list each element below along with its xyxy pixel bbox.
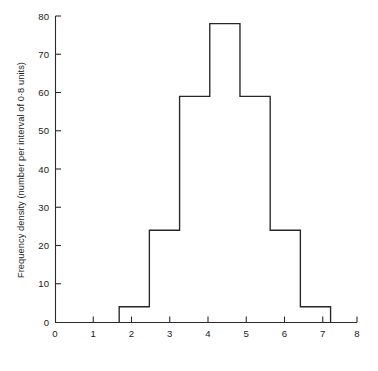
plot-area: 80 70 60 50 40 30 20 10 0 0 1 2 3 4	[0, 0, 378, 371]
histogram-figure: Frequency density (number per interval o…	[0, 0, 378, 371]
x-tick-label: 6	[282, 328, 287, 339]
x-tick-label: 5	[244, 328, 249, 339]
y-tick-label: 40	[38, 164, 49, 175]
y-tick-label: 20	[38, 240, 49, 251]
y-tick-label: 70	[38, 49, 49, 60]
y-tick-label: 30	[38, 202, 49, 213]
y-tick-label: 60	[38, 87, 49, 98]
x-tick-label: 7	[320, 328, 325, 339]
x-tick-label: 8	[354, 328, 359, 339]
x-tick-label: 4	[205, 328, 211, 339]
x-tick-label: 2	[129, 328, 134, 339]
histogram-bars	[119, 24, 330, 322]
x-tick-label: 3	[167, 328, 172, 339]
x-tick-label: 0	[52, 328, 57, 339]
x-axis-ticks	[93, 317, 357, 323]
y-axis-ticks	[56, 16, 62, 284]
y-tick-label: 10	[38, 278, 49, 289]
x-axis-labels: 0 1 2 3 4 5 6 7 8	[52, 328, 359, 339]
y-axis-labels: 80 70 60 50 40 30 20 10 0	[38, 11, 49, 328]
x-tick-label: 1	[91, 328, 96, 339]
y-tick-label: 50	[38, 125, 49, 136]
y-tick-label: 0	[44, 317, 49, 328]
y-tick-label: 80	[38, 11, 49, 22]
